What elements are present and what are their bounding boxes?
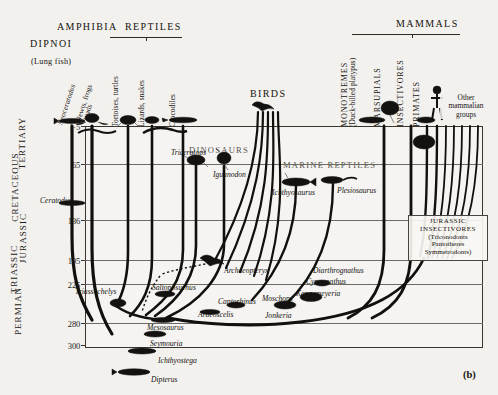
- fossil-label-jonkeria: Jonkeria: [265, 311, 292, 320]
- jurassic-insectivores-box: JURASSIC INSECTIVORES (Triconodonts Pant…: [408, 215, 488, 261]
- fossil-label-saltoposuchus: Saltoposuchus: [152, 283, 196, 292]
- fossil-label-seymouria: Seymouria: [150, 339, 182, 348]
- fossil-label-triceratops: Triceratops: [171, 148, 206, 157]
- fossil-label-ceratodus: Ceratodus: [40, 196, 72, 205]
- panel-letter: (b): [463, 369, 476, 380]
- fossil-label-diarthrognathus: Diarthrognathus: [313, 266, 364, 275]
- fossil-label-araeoscelis: Araeoscelis: [198, 310, 233, 319]
- fossil-label-captorhinus: Captorhinus: [218, 297, 256, 306]
- fossil-label-kannemeyeria: Kannemeyeria: [296, 289, 340, 298]
- fossil-label-ichthyostega: Ichthyostega: [158, 356, 197, 365]
- jurassic-box-line3: Symmetrodonts): [413, 249, 483, 257]
- fossil-label-cynognathus: Cynognathus: [306, 277, 346, 286]
- other-mammalian-line3: groups: [440, 111, 492, 119]
- fossil-label-moschops: Moschops: [262, 294, 293, 303]
- fossil-label-plesiosaurus: Plesiosaurus: [337, 186, 376, 195]
- creature-silhouettes: [0, 0, 498, 395]
- fossil-label-ichthyosaurus: Ichthyosaurus: [272, 188, 315, 197]
- fossil-label-triassochelys: Triassochelys: [75, 287, 116, 296]
- fossil-label-dipterus: Dipterus: [151, 375, 178, 384]
- fossil-label-iguanodon: Iguanodon: [213, 170, 246, 179]
- other-mammalian-groups-label: Other mammalian groups: [440, 94, 492, 119]
- evolution-chart-figure: 1·5 65 136 195 225 280 300 TERTIARY CRET…: [0, 0, 498, 395]
- fossil-label-mesosaurus: Mesosaurus: [147, 323, 184, 332]
- fossil-label-archaeopteryx: Archaeopteryx: [224, 266, 268, 275]
